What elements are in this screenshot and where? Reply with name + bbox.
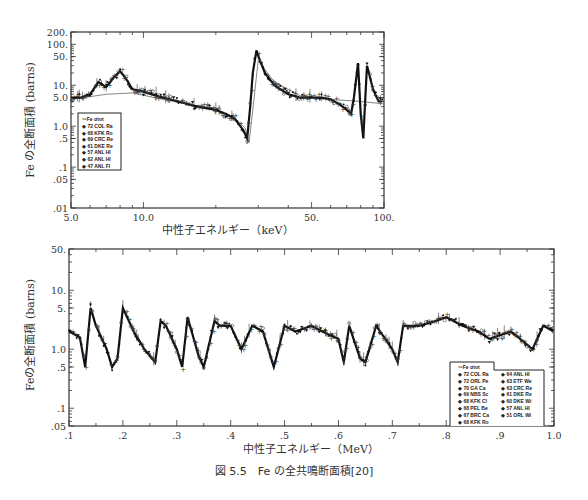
svg-text:◆ 62 ANL HI: ◆ 62 ANL HI: [81, 156, 111, 162]
svg-text:+: +: [250, 87, 256, 95]
bottom-x-tick-labels: .1.2.3.4.5.6.7.8.91.0: [64, 430, 561, 441]
bottom-x-axis-label: 中性子エネルギー（MeV）: [243, 442, 379, 456]
svg-text:+: +: [349, 111, 355, 119]
svg-text:50.: 50.: [304, 212, 319, 223]
svg-text:5.: 5.: [57, 303, 66, 314]
svg-text:10.: 10.: [53, 80, 68, 91]
svg-text:200.: 200.: [47, 27, 68, 38]
top-legend: ⁵⁶Fe σtot◆ 72 COL Ra◆ 68 KFK Ro◆ 69 CRC …: [78, 113, 121, 170]
svg-text:.1: .1: [59, 162, 68, 173]
svg-text:◆ 72 COL Ra: ◆ 72 COL Ra: [457, 371, 489, 377]
svg-text:⁵⁶Fe σtot: ⁵⁶Fe σtot: [458, 364, 480, 370]
svg-text:+: +: [81, 352, 87, 360]
svg-text:◆ 69 CRC Re: ◆ 69 CRC Re: [81, 136, 113, 142]
svg-text:◆ 69 NBS Sc: ◆ 69 NBS Sc: [457, 391, 489, 397]
svg-text:◆ 68 PEL Be: ◆ 68 PEL Be: [457, 405, 488, 411]
svg-text:◆ 63 CRC Re: ◆ 63 CRC Re: [500, 385, 532, 391]
figure: 200.100.50.10.5.01.0.5.1.05.01 5.010.050…: [0, 0, 588, 500]
bottom-chart: 50.10.5.1.0.5.1.05 .1.2.3.4.5.6.7.8.91.0…: [23, 244, 562, 457]
svg-text:.8: .8: [442, 430, 451, 441]
svg-text:.3: .3: [172, 430, 181, 441]
svg-text:.5: .5: [280, 430, 289, 441]
svg-text:◆ 68 KFK Ro: ◆ 68 KFK Ro: [457, 419, 489, 425]
svg-text:.05: .05: [53, 174, 68, 185]
svg-text:+: +: [371, 333, 377, 341]
svg-text:◆ 72 ORL Pe: ◆ 72 ORL Pe: [457, 378, 489, 384]
svg-text:+: +: [370, 341, 376, 349]
svg-text:◆ 68 KFK Ro: ◆ 68 KFK Ro: [81, 130, 113, 136]
top-y-tick-labels: 200.100.50.10.5.01.0.5.1.05.01: [47, 27, 68, 214]
svg-text:100.: 100.: [373, 212, 394, 223]
svg-text:+: +: [164, 320, 170, 328]
svg-text:+: +: [83, 364, 89, 372]
figure-caption: 図 5.5 Fe の全共鳴断面積[20]: [0, 462, 588, 478]
svg-text:+: +: [355, 344, 361, 352]
svg-text:◆ 67 BRC Ca: ◆ 67 BRC Ca: [457, 412, 489, 418]
svg-text:◆ 47 ANL FI: ◆ 47 ANL FI: [81, 163, 111, 169]
svg-text:5.0: 5.0: [63, 212, 78, 223]
svg-text:+: +: [184, 333, 190, 341]
svg-text:◆ 72 COL Ra: ◆ 72 COL Ra: [81, 123, 113, 129]
svg-text:.9: .9: [496, 430, 505, 441]
svg-text:.1: .1: [57, 403, 66, 414]
top-chart: 200.100.50.10.5.01.0.5.1.05.01 5.010.050…: [23, 27, 395, 238]
bottom-y-tick-labels: 50.10.5.1.0.5.1.05: [51, 244, 66, 432]
svg-text:.5: .5: [59, 133, 68, 144]
svg-text:◆ 57 ANL HI: ◆ 57 ANL HI: [81, 149, 111, 155]
svg-text:+: +: [177, 352, 183, 360]
svg-text:+: +: [350, 329, 356, 337]
svg-text:◆ 57 ANL HI: ◆ 57 ANL HI: [500, 405, 530, 411]
top-x-axis-label: 中性子エネルギー（keV）: [162, 223, 293, 237]
svg-text:+: +: [278, 341, 284, 349]
svg-text:5.0: 5.0: [53, 92, 68, 103]
svg-text:.7: .7: [388, 430, 397, 441]
svg-text:+: +: [344, 345, 350, 353]
svg-text:⁵⁶Fe σtot: ⁵⁶Fe σtot: [82, 116, 104, 122]
svg-text:.2: .2: [118, 430, 127, 441]
svg-text:+: +: [238, 120, 244, 128]
svg-text:+: +: [398, 347, 404, 355]
svg-text:+: +: [243, 342, 249, 350]
svg-text:.6: .6: [334, 430, 343, 441]
svg-text:+: +: [313, 323, 319, 331]
svg-text:+: +: [328, 335, 334, 343]
svg-text:◆ 68 KFK Cl: ◆ 68 KFK Cl: [457, 398, 488, 404]
svg-text:+: +: [193, 339, 199, 347]
svg-text:.5: .5: [57, 362, 66, 373]
svg-text:+: +: [470, 327, 476, 335]
svg-text:◆ 60 DKE Wi: ◆ 60 DKE Wi: [500, 398, 532, 404]
svg-text:.1: .1: [64, 430, 73, 441]
svg-text:10.0: 10.0: [133, 212, 154, 223]
svg-text:1.0: 1.0: [53, 121, 68, 132]
svg-text:+: +: [180, 366, 186, 374]
svg-text:◆ 70 GA Ca: ◆ 70 GA Ca: [457, 385, 486, 391]
svg-text:+: +: [208, 340, 214, 348]
svg-text:100.: 100.: [47, 39, 68, 50]
svg-text:◆ 64 ANL HI: ◆ 64 ANL HI: [500, 371, 530, 377]
svg-text:+: +: [189, 325, 195, 333]
top-x-tick-labels: 5.010.050.100.: [63, 212, 394, 223]
svg-text:+: +: [534, 341, 540, 349]
svg-text:◆ 61 DKE Re: ◆ 61 DKE Re: [81, 143, 113, 149]
svg-text:50.: 50.: [53, 51, 68, 62]
svg-text:◆ 61 DKE Re: ◆ 61 DKE Re: [500, 391, 532, 397]
svg-text:.4: .4: [226, 430, 235, 441]
svg-text:+: +: [273, 358, 279, 366]
svg-text:50.: 50.: [51, 244, 66, 255]
svg-text:+: +: [351, 101, 357, 109]
svg-text:1.0: 1.0: [546, 430, 561, 441]
svg-text:+: +: [360, 120, 366, 128]
svg-text:1.0: 1.0: [51, 344, 66, 355]
svg-text:◆ 51 ORL Wi: ◆ 51 ORL Wi: [500, 412, 532, 418]
top-y-axis-label: Fe の全断面積 (barns): [23, 62, 37, 178]
svg-text:+: +: [211, 328, 217, 336]
svg-text:+: +: [127, 316, 133, 324]
svg-text:+: +: [256, 50, 262, 58]
svg-text:◆ 63 ETF We: ◆ 63 ETF We: [500, 378, 532, 384]
svg-text:10.: 10.: [51, 285, 66, 296]
svg-text:+: +: [172, 342, 178, 350]
bottom-legend: ⁵⁶Fe σtot◆ 72 COL Ra◆ 72 ORL Pe◆ 70 GA C…: [450, 362, 544, 426]
bottom-y-axis-label: Feの全断面積 (barns): [23, 279, 37, 391]
